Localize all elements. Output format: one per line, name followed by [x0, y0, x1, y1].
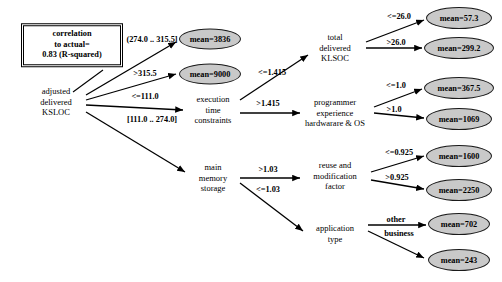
info-box-connector	[73, 70, 103, 92]
tree-node-root: adjusteddeliveredKSLOC	[40, 86, 72, 118]
edge-label-e6: >1.415	[256, 99, 279, 108]
leaf-node-l-9000: mean=9000	[179, 64, 241, 85]
tree-node-exec: executiontimeconstraints	[195, 94, 232, 126]
info-box-line: 0.83 (R-squared)	[30, 50, 114, 61]
leaf-label: mean=57.3	[440, 14, 479, 23]
node-label-line: application	[316, 223, 354, 234]
node-label-line: factor	[313, 181, 356, 192]
tree-node-mem: mainmemorystorage	[199, 162, 227, 194]
leaf-node-l-299: mean=299.2	[424, 37, 494, 59]
node-label-line: memory	[199, 173, 227, 184]
edge-label-e15: other	[387, 215, 406, 224]
correlation-box: correlationto actual=0.83 (R-squared)	[23, 25, 121, 65]
leaf-node-l-3836: mean=3836	[179, 29, 241, 50]
leaf-label: mean=367.5	[438, 84, 481, 93]
edge-label-e11: <=1.0	[386, 81, 406, 90]
leaf-node-l-367: mean=367.5	[424, 77, 494, 99]
leaf-node-l-57: mean=57.3	[426, 7, 492, 29]
leaf-label: mean=1069	[439, 115, 480, 124]
node-label-line: main	[199, 162, 227, 173]
node-label-line: programmer	[305, 97, 365, 108]
leaf-node-l-1069: mean=1069	[426, 108, 492, 130]
node-label-line: execution	[195, 94, 232, 105]
leaf-label: mean=1600	[439, 152, 480, 161]
node-label-line: delivered	[40, 97, 72, 108]
info-box-line: to actual=	[30, 40, 114, 51]
leaf-node-l-1600: mean=1600	[426, 145, 492, 167]
node-label-line: type	[316, 233, 354, 244]
leaf-label: mean=243	[441, 256, 478, 265]
node-label-line: storage	[199, 183, 227, 194]
tree-node-total: totaldeliveredKLSOC	[319, 32, 351, 64]
edge-label-e3: <=111.0	[131, 92, 158, 101]
edge-label-e14: >0.925	[385, 173, 408, 182]
decision-tree-figure: correlationto actual=0.83 (R-squared) ad…	[0, 0, 502, 282]
leaf-label: mean=9000	[190, 70, 231, 79]
leaf-label: mean=3836	[190, 35, 231, 44]
node-label-line: delivered	[319, 43, 351, 54]
node-label-line: KSLOC	[40, 107, 72, 118]
edge-label-e5: <=1.415	[258, 68, 286, 77]
tree-node-apptype: applicationtype	[316, 223, 354, 244]
tree-node-prog: programmerexperiencehardwarare & OS	[305, 97, 365, 129]
leaf-node-l-2250: mean=2250	[426, 179, 492, 201]
edge-label-e2: >315.5	[133, 69, 156, 78]
edge-label-e7: >1.03	[258, 165, 277, 174]
tree-edge	[86, 105, 183, 110]
node-label-line: hardwarare & OS	[305, 118, 365, 129]
edge-label-e16: business	[384, 229, 414, 238]
info-connector	[73, 70, 103, 92]
info-box-line: correlation	[30, 29, 114, 40]
leaf-node-l-702: mean=702	[428, 213, 490, 235]
edge-lines	[86, 20, 426, 258]
leaf-node-l-243: mean=243	[428, 249, 490, 271]
node-label-line: experience	[305, 108, 365, 119]
edge-label-e13: <=0.925	[385, 148, 413, 157]
node-label-line: adjusted	[40, 86, 72, 97]
leaf-label: mean=2250	[439, 186, 480, 195]
edge-label-e10: >26.0	[386, 38, 405, 47]
node-label-line: KLSOC	[319, 53, 351, 64]
edge-label-e1: (274.0 .. 315.5]	[126, 35, 177, 44]
node-label-line: constraints	[195, 115, 232, 126]
node-label-line: reuse and	[313, 160, 356, 171]
tree-edge	[371, 156, 424, 172]
tree-edge	[240, 55, 308, 100]
leaf-label: mean=702	[441, 220, 478, 229]
node-label-line: modification	[313, 171, 356, 182]
node-label-line: total	[319, 32, 351, 43]
leaf-label: mean=299.2	[438, 44, 481, 53]
edge-label-e12: >1.0	[386, 105, 401, 114]
node-label-line: time	[195, 105, 232, 116]
tree-edge	[374, 113, 424, 118]
tree-node-reuse: reuse andmodificationfactor	[313, 160, 356, 192]
edge-label-e4: [111.0 .. 274.0]	[127, 115, 177, 124]
edge-label-e9: <=26.0	[387, 12, 411, 21]
edge-label-e8: <=1.03	[256, 185, 280, 194]
